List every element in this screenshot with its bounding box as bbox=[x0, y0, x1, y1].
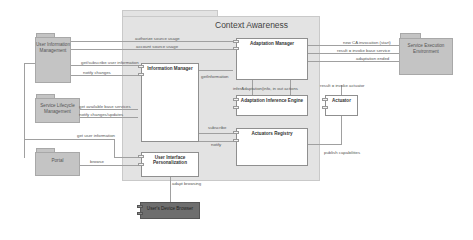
label-adapt-browsing: adapt browsing bbox=[172, 181, 201, 186]
connector-line bbox=[308, 45, 399, 46]
connector-line bbox=[71, 65, 138, 66]
connector-line bbox=[308, 144, 342, 145]
port bbox=[137, 205, 143, 208]
label-invoke-base-service: result = invoke base service bbox=[337, 48, 390, 53]
package-portal[interactable]: Portal bbox=[35, 152, 80, 176]
connector-line bbox=[71, 41, 233, 42]
port bbox=[137, 212, 143, 215]
connector-line bbox=[308, 53, 399, 54]
label-get-available-base-services: get available base services bbox=[79, 104, 131, 109]
label-notify: notify bbox=[211, 142, 221, 147]
port bbox=[233, 40, 239, 43]
label-get-user-information: get user information bbox=[77, 133, 115, 138]
port bbox=[233, 98, 239, 101]
connector-line bbox=[170, 177, 171, 202]
connector-line bbox=[24, 63, 25, 158]
connector-line bbox=[308, 61, 399, 62]
port bbox=[233, 47, 239, 50]
connector-line bbox=[71, 49, 233, 50]
label-get-information: getInformation bbox=[201, 74, 228, 79]
component-information-manager[interactable]: Information Manager bbox=[141, 63, 199, 142]
connector-line bbox=[71, 75, 138, 76]
connector-line bbox=[80, 117, 138, 118]
label-get-subscribe-user-information: get/subscribe user information bbox=[81, 60, 139, 65]
label-invoke-actuator: result = invoke actuator bbox=[320, 83, 365, 88]
port bbox=[322, 106, 328, 109]
component-actuator[interactable]: Actuator bbox=[325, 95, 358, 116]
port bbox=[138, 155, 144, 158]
label-account-source-usage: account source usage bbox=[136, 44, 178, 49]
label-new-ca-invocation: new CA invocation (start) bbox=[343, 40, 391, 45]
connector-line bbox=[199, 70, 233, 71]
port bbox=[138, 163, 144, 166]
package-user-info-mgmt[interactable]: User Information Management bbox=[35, 37, 71, 83]
diagram-title: Context Awareness bbox=[215, 20, 288, 30]
port bbox=[138, 73, 144, 76]
label-authorize-source-usage: authorize source usage bbox=[135, 36, 180, 41]
port bbox=[233, 106, 239, 109]
port bbox=[322, 98, 328, 101]
component-adaptation-manager[interactable]: Adaptation Manager bbox=[236, 38, 308, 80]
component-adaptation-inference-engine[interactable]: Adaptation Inference Engine bbox=[236, 95, 308, 116]
connector-line bbox=[80, 165, 138, 166]
label-publish-capabilities: publish capabilities bbox=[324, 150, 360, 155]
label-subscribe: subscribe bbox=[208, 125, 226, 130]
connector-line bbox=[114, 139, 115, 157]
port bbox=[233, 139, 239, 142]
connector-line bbox=[24, 139, 114, 140]
connector-line bbox=[341, 116, 342, 144]
label-adaptation-ended: adaptation ended bbox=[356, 56, 389, 61]
port bbox=[138, 65, 144, 68]
connector-line bbox=[24, 63, 35, 64]
package-service-exec-env[interactable]: Service Execution Environment bbox=[399, 38, 453, 75]
label-browse: browse bbox=[90, 159, 104, 164]
label-infer-adaptation: inferAdaptation(info, in out actions bbox=[233, 86, 298, 91]
connector-line bbox=[80, 109, 138, 110]
label-notify-changes: notify changes bbox=[83, 70, 111, 75]
connector-line bbox=[114, 157, 138, 158]
label-notify-changes-updates: notify changes/updates bbox=[79, 112, 123, 117]
component-users-device-browser[interactable]: User's Device Browser bbox=[140, 202, 200, 219]
component-ui-personalization[interactable]: User Interface Personalization bbox=[141, 152, 199, 177]
component-actuators-registry[interactable]: Actuators Registry bbox=[236, 128, 308, 166]
connector-line bbox=[199, 133, 233, 134]
package-service-lifecycle-mgmt[interactable]: Service Lifecycle Management bbox=[35, 98, 80, 123]
port bbox=[233, 131, 239, 134]
